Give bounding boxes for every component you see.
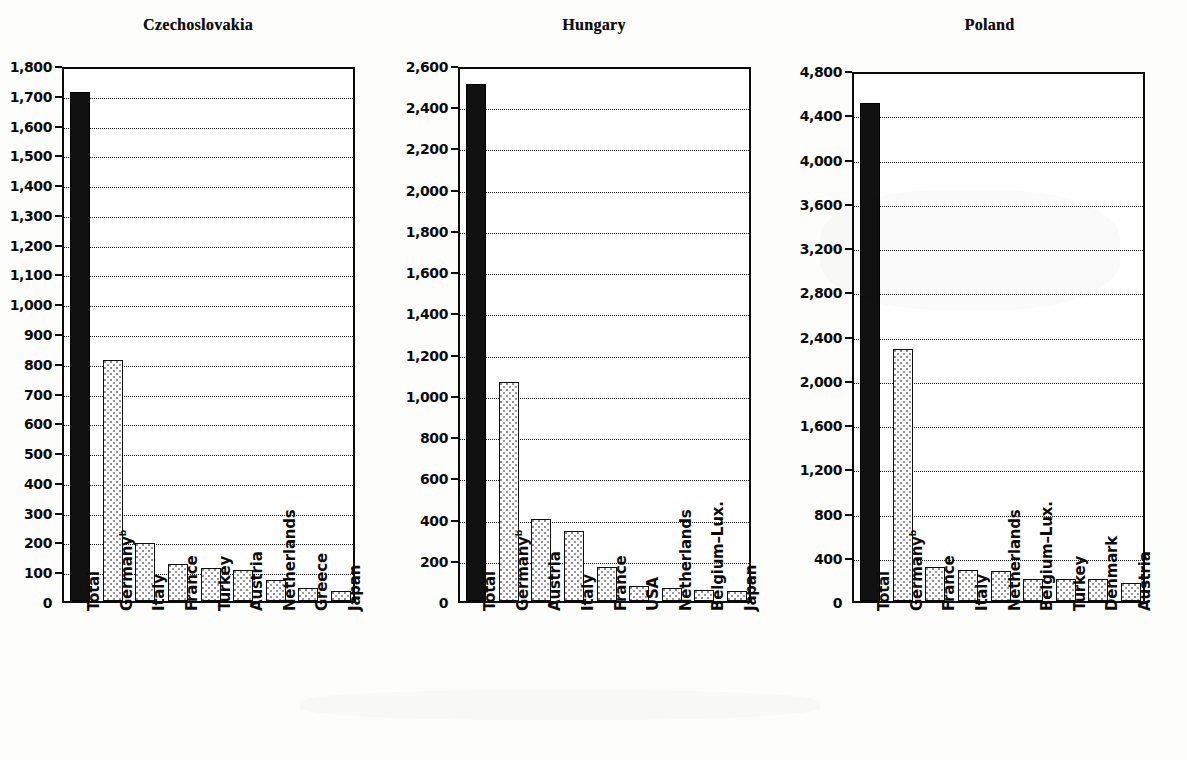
y-axis-tick-label: 3,600	[792, 197, 842, 213]
x-axis-category-label: Denmark	[1103, 536, 1121, 611]
y-axis-tick	[451, 272, 458, 274]
x-axis-category-label: France	[612, 556, 630, 611]
y-axis-tick-label: 600	[396, 471, 448, 487]
y-axis-tick-label: 1,800	[0, 59, 52, 75]
gridline	[854, 162, 1143, 163]
x-axis-category-label: Italy	[973, 574, 991, 611]
y-axis-tick	[845, 115, 852, 117]
y-axis-tick-label: 400	[792, 551, 842, 567]
gridline	[64, 336, 353, 337]
y-axis-tick-label: 500	[0, 446, 52, 462]
bar	[70, 92, 90, 601]
x-axis-category-label: Japan	[742, 565, 760, 611]
chart-panel-czechoslovakia: Czechoslovakia 1,8001,7001,6001,5001,400…	[0, 0, 396, 760]
y-axis-tick	[451, 437, 458, 439]
y-axis-tick	[55, 96, 62, 98]
y-axis-tick	[845, 71, 852, 73]
y-axis-tick-label: 2,400	[396, 100, 448, 116]
gridline	[64, 217, 353, 218]
y-axis-tick	[845, 558, 852, 560]
x-axis-category-label: Austria	[546, 551, 564, 611]
y-axis-tick	[451, 478, 458, 480]
y-axis-tick	[845, 204, 852, 206]
x-axis-category-label: Netherlands	[1006, 509, 1024, 611]
y-axis-tick	[451, 355, 458, 357]
gridline	[64, 276, 353, 277]
y-axis-tick	[55, 364, 62, 366]
gridline	[460, 274, 749, 275]
y-axis-tick-label: 2,000	[396, 183, 448, 199]
bar	[466, 84, 486, 601]
y-axis-tick-label: 700	[0, 387, 52, 403]
y-axis-tick	[451, 561, 458, 563]
y-axis-tick-label: 1,700	[0, 89, 52, 105]
x-axis-category-label: Total	[85, 571, 103, 611]
gridline	[854, 206, 1143, 207]
y-axis-tick	[55, 304, 62, 306]
x-axis-category-label: Germanyb	[118, 530, 136, 611]
gridline	[854, 294, 1143, 295]
y-axis-tick-label: 1,400	[396, 306, 448, 322]
x-axis-category-label: Belgium–Lux.	[709, 501, 727, 611]
y-axis-tick	[55, 542, 62, 544]
y-axis-tick	[55, 483, 62, 485]
y-axis-tick	[55, 334, 62, 336]
y-axis-tick	[55, 185, 62, 187]
y-axis-tick-label: 1,100	[0, 267, 52, 283]
y-axis-tick	[845, 292, 852, 294]
y-axis-tick	[55, 572, 62, 574]
y-axis-tick-label: 1,200	[0, 238, 52, 254]
y-axis-tick-label: 4,800	[792, 64, 842, 80]
gridline	[64, 187, 353, 188]
plot-area	[852, 72, 1145, 603]
gridline	[854, 339, 1143, 340]
y-axis-tick-label: 2,600	[396, 59, 448, 75]
x-axis-category-label: Germanyb	[908, 530, 926, 611]
y-axis-tick	[55, 245, 62, 247]
y-axis-tick-label: 0	[396, 595, 448, 611]
y-axis-tick	[451, 313, 458, 315]
y-axis-tick-label: 2,000	[792, 374, 842, 390]
bar	[860, 103, 880, 601]
y-axis-tick-label: 800	[0, 357, 52, 373]
y-axis-tick	[845, 337, 852, 339]
x-axis-category-label: USA	[644, 577, 662, 611]
y-axis-tick	[451, 148, 458, 150]
y-axis-tick-label: 1,600	[792, 418, 842, 434]
y-axis-tick	[55, 453, 62, 455]
x-axis-category-label: Turkey	[1071, 556, 1089, 611]
gridline	[460, 109, 749, 110]
y-axis-tick-label: 600	[0, 416, 52, 432]
x-axis-category-label: France	[940, 556, 958, 611]
x-axis-category-label: Total	[875, 571, 893, 611]
y-axis-tick-label: 1,200	[396, 348, 448, 364]
y-axis-tick-label: 100	[0, 565, 52, 581]
y-axis-tick	[845, 425, 852, 427]
x-axis-category-label: Greece	[313, 553, 331, 611]
y-axis-tick-label: 3,200	[792, 241, 842, 257]
x-axis-category-label: Belgium–Lux.	[1038, 501, 1056, 611]
y-axis-tick-label: 4,400	[792, 108, 842, 124]
gridline	[64, 247, 353, 248]
x-axis-category-label: France	[183, 556, 201, 611]
y-axis-tick	[55, 423, 62, 425]
y-axis-tick-label: 1,400	[0, 178, 52, 194]
y-axis-tick-label: 200	[396, 554, 448, 570]
y-axis-tick-label: 1,000	[396, 389, 448, 405]
gridline	[64, 157, 353, 158]
y-axis-tick	[845, 381, 852, 383]
x-axis-category-label: Austria	[248, 551, 266, 611]
y-axis-tick-label: 800	[792, 507, 842, 523]
plot-area	[458, 67, 751, 603]
gridline	[460, 357, 749, 358]
y-axis-tick-label: 400	[396, 513, 448, 529]
y-axis-tick	[55, 215, 62, 217]
x-axis-category-label: Italy	[150, 574, 168, 611]
x-axis-category-label: Japan	[346, 565, 364, 611]
gridline	[460, 315, 749, 316]
chart-title: Poland	[792, 16, 1187, 34]
y-axis-tick-label: 400	[0, 476, 52, 492]
y-axis-tick	[55, 155, 62, 157]
x-axis-category-label: Germanyb	[514, 530, 532, 611]
y-axis-tick	[845, 248, 852, 250]
